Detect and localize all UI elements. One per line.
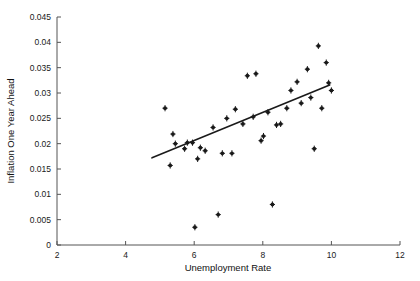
y-tick-label: 0.015 (30, 164, 52, 174)
scatter-point (210, 124, 215, 130)
y-axis-title: Inflation One Year Ahead (5, 78, 16, 183)
scatter-point (224, 115, 229, 121)
scatter-point (324, 60, 329, 66)
scatter-point (299, 100, 304, 106)
y-tick-label: 0.02 (34, 139, 51, 149)
scatter-point (245, 73, 250, 79)
scatter-chart-figure: 24681012 00.0050.010.0150.020.0250.030.0… (0, 0, 420, 281)
x-tick-label: 2 (55, 250, 60, 260)
scatter-point (270, 201, 275, 207)
scatter-point (258, 138, 263, 144)
scatter-point (253, 71, 258, 77)
scatter-points (162, 43, 334, 231)
scatter-point (278, 121, 283, 127)
scatter-point (182, 146, 187, 152)
scatter-point (195, 156, 200, 162)
scatter-point (261, 133, 266, 139)
x-tick-labels: 24681012 (55, 250, 405, 260)
scatter-point (288, 87, 293, 93)
y-tick-label: 0.005 (30, 215, 52, 225)
scatter-point (170, 131, 175, 137)
scatter-point (284, 105, 289, 111)
x-tick-label: 12 (395, 250, 405, 260)
y-tick-labels: 00.0050.010.0150.020.0250.030.0350.040.0… (30, 12, 52, 250)
scatter-point (192, 224, 197, 230)
y-tick-label: 0 (46, 240, 51, 250)
y-tick-label: 0.025 (30, 113, 52, 123)
x-tick-label: 6 (192, 250, 197, 260)
y-tick-label: 0.045 (30, 12, 52, 22)
scatter-point (173, 141, 178, 147)
scatter-point (203, 148, 208, 154)
scatter-point (198, 145, 203, 151)
y-tick-label: 0.035 (30, 63, 52, 73)
scatter-point (319, 105, 324, 111)
chart-canvas: 24681012 00.0050.010.0150.020.0250.030.0… (0, 0, 420, 281)
scatter-point (274, 122, 279, 128)
scatter-point (168, 162, 173, 168)
x-axis-title: Unemployment Rate (185, 262, 272, 273)
scatter-point (305, 66, 310, 72)
scatter-point (312, 146, 317, 152)
x-tick-label: 8 (260, 250, 265, 260)
y-tick-label: 0.03 (34, 88, 51, 98)
x-tick-label: 10 (327, 250, 337, 260)
scatter-point (308, 94, 313, 100)
scatter-point (329, 87, 334, 93)
y-axis-ticks (57, 17, 61, 245)
scatter-point (162, 105, 167, 111)
y-tick-label: 0.01 (34, 189, 51, 199)
scatter-point (220, 150, 225, 156)
scatter-point (216, 212, 221, 218)
scatter-point (233, 106, 238, 112)
scatter-point (295, 79, 300, 85)
x-axis-ticks (57, 241, 400, 245)
scatter-point (229, 150, 234, 156)
x-tick-label: 4 (123, 250, 128, 260)
regression-line (152, 85, 330, 158)
y-tick-label: 0.04 (34, 37, 51, 47)
scatter-point (316, 43, 321, 49)
